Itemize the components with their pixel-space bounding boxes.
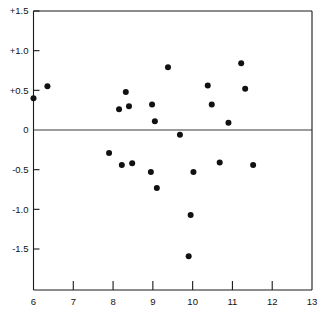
- data-point: [186, 253, 192, 259]
- y-tick-label: 0: [23, 124, 28, 135]
- x-axis-tick-labels: 678910111213: [31, 296, 317, 307]
- data-point: [242, 86, 248, 92]
- data-point: [238, 60, 244, 66]
- data-point: [190, 169, 196, 175]
- scatter-plot-figure: +1.5+1.0+0.50-0.5-1.0-1.5 678910111213: [0, 0, 323, 319]
- y-tick-label: +1.0: [10, 45, 29, 56]
- data-point: [116, 106, 122, 112]
- data-point: [205, 83, 211, 89]
- data-point: [148, 169, 154, 175]
- y-axis-tick-labels: +1.5+1.0+0.50-0.5-1.0-1.5: [10, 5, 29, 254]
- data-point: [44, 83, 50, 89]
- y-tick-label: +1.5: [10, 5, 29, 16]
- data-point: [188, 212, 194, 218]
- data-point: [154, 185, 160, 191]
- data-point: [225, 120, 231, 126]
- data-point: [209, 102, 215, 108]
- data-point: [177, 132, 183, 138]
- data-points-group: [31, 60, 257, 259]
- x-tick-label: 6: [31, 296, 36, 307]
- x-axis-ticks: [73, 281, 272, 290]
- x-tick-label: 9: [150, 296, 155, 307]
- data-point: [250, 162, 256, 168]
- x-tick-label: 13: [307, 296, 318, 307]
- axes-group: [34, 11, 313, 290]
- y-tick-label: -1.5: [12, 243, 28, 254]
- x-tick-label: 10: [187, 296, 198, 307]
- y-tick-label: -0.5: [12, 164, 28, 175]
- data-point: [123, 89, 129, 95]
- data-point: [31, 95, 37, 101]
- data-point: [106, 150, 112, 156]
- y-tick-label: -1.0: [12, 204, 28, 215]
- y-tick-label: +0.5: [10, 85, 29, 96]
- data-point: [129, 160, 135, 166]
- x-tick-label: 12: [267, 296, 278, 307]
- data-point: [217, 160, 223, 166]
- data-point: [165, 64, 171, 70]
- plot-canvas: +1.5+1.0+0.50-0.5-1.0-1.5 678910111213: [0, 0, 323, 319]
- x-tick-label: 8: [110, 296, 115, 307]
- data-point: [152, 118, 158, 124]
- x-tick-label: 7: [71, 296, 76, 307]
- data-point: [149, 102, 155, 108]
- x-tick-label: 11: [227, 296, 237, 307]
- data-point: [119, 162, 125, 168]
- data-point: [126, 103, 132, 109]
